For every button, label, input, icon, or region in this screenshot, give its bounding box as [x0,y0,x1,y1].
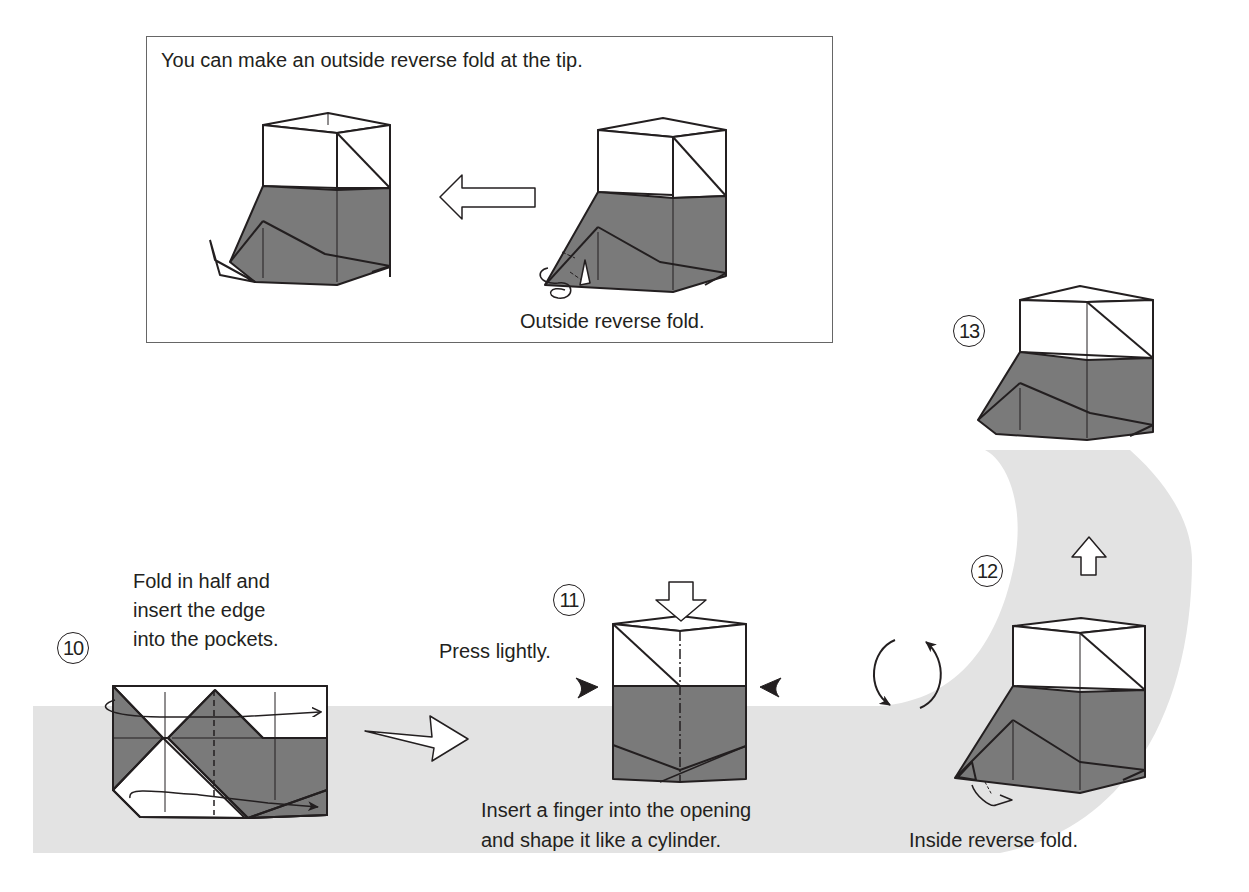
arrow-right-icon [365,716,468,761]
arrow-up-icon [1072,537,1106,575]
arrow-down-icon [656,582,706,621]
step11-instruction-line-1: Insert a finger into the opening [481,796,751,824]
step11-note: Press lightly. [439,637,551,665]
step12-caption: Inside reverse fold. [909,826,1078,854]
step11-model [613,616,746,782]
push-arrow-icon [576,678,598,698]
step12-model [955,618,1145,805]
push-arrow-icon [760,678,781,697]
diagram-drawings [0,0,1249,892]
step13-model [978,286,1153,440]
rotate-over-icon [874,640,941,708]
step10-model [105,686,327,818]
step10-instruction-line-3: into the pockets. [133,625,279,653]
step10-instruction-line-1: Fold in half and [133,567,270,595]
arrow-left-icon [440,175,535,219]
inset-model-result [210,113,390,285]
step-number-12: 12 [971,555,1003,587]
step11-instruction-line-2: and shape it like a cylinder. [481,826,721,854]
step-number-10: 10 [57,632,89,664]
fold-arrow-icon [972,785,1012,805]
inset-model-before [540,118,726,298]
step10-instruction-line-2: insert the edge [133,596,265,624]
step-number-11: 11 [553,584,585,616]
step-number-13: 13 [953,315,985,347]
